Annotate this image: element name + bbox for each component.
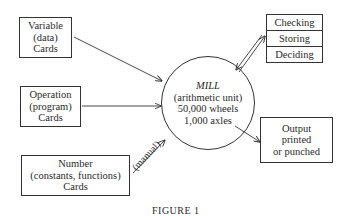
mill-line-3: 1,000 axles (184, 115, 232, 127)
mill-line-1: (arithmetic unit) (174, 92, 243, 104)
arrow-variable-to-mill (74, 37, 162, 81)
output-line-3: or punched (273, 146, 320, 158)
variable-line-3: Cards (33, 43, 58, 55)
number-line-3: Cards (63, 181, 88, 193)
mill-title: MILL (196, 80, 220, 92)
mill-circle: MILL (arithmetic unit) 50,000 wheels 1,0… (161, 56, 255, 150)
operation-line-2: (program) (29, 101, 72, 113)
output-box: Output printed or punched (260, 117, 333, 163)
variable-line-2: (data) (33, 32, 57, 44)
number-line-1: Number (58, 158, 92, 170)
number-cards-box: Number (constants, functions) Cards (21, 155, 130, 196)
control-deciding: Deciding (267, 47, 322, 63)
number-line-2: (constants, functions) (30, 170, 120, 182)
output-line-1: Output (282, 123, 311, 135)
operation-line-1: Operation (30, 89, 72, 101)
variable-line-1: Variable (28, 20, 63, 32)
control-storing: Storing (267, 31, 322, 47)
arrow-control-to-mill (236, 35, 262, 70)
operation-line-3: Cards (38, 112, 63, 124)
output-line-2: printed (282, 134, 312, 146)
control-checking: Checking (267, 15, 322, 31)
mill-line-2: 50,000 wheels (178, 103, 239, 115)
variable-cards-box: Variable (data) Cards (19, 17, 72, 58)
operation-cards-box: Operation (program) Cards (20, 86, 81, 127)
figure-caption: FIGURE 1 (152, 205, 200, 216)
arrow-mill-to-control (239, 36, 265, 72)
control-stack: Checking Storing Deciding (266, 14, 323, 63)
